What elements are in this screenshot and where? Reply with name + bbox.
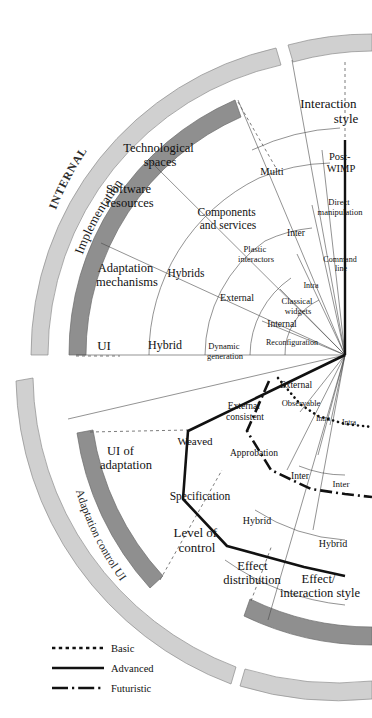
label-inter-effect-2: Inter [333,479,350,489]
diagram-canvas: INTERNAL Implementation Adaptation contr… [0,0,372,718]
label-approbation: Approbation [230,448,278,458]
label-hybrids: Hybrids [167,267,205,280]
label-observable: Observable [282,398,321,408]
label-intra-observable-1: Intra [316,414,331,423]
label-hybrid-impl: Hybrid [148,338,182,352]
label-intra-style: Intra [303,281,319,290]
label-components-and-services: Components and services [197,206,258,231]
label-intra-observable-2: Intra [342,418,357,427]
label-post-wimp: Post- WIMP [327,151,356,174]
label-hybrid-effect-2: Hybrid [319,538,347,549]
label-external-observable: External [280,380,313,390]
label-inter-effect-1: Inter [291,471,310,481]
label-classical-widgets: Classical widgets [282,296,315,316]
label-inter-style: Inter [287,228,306,238]
legend-label-basic: Basic [111,643,135,654]
label-reconfiguration: Reconfiguration [266,338,318,347]
label-internal-impl: Internal [267,319,297,329]
label-dynamic-generation: Dynamic generation [207,341,244,361]
label-external-impl: External [220,292,254,303]
label-hybrid-effect-1: Hybrid [243,515,271,526]
radial-taxonomy-figure: INTERNAL Implementation Adaptation contr… [0,0,372,718]
callout-level-of-control: Level of control [174,525,221,555]
label-weaved: Weaved [177,435,213,447]
legend-label-advanced: Advanced [111,663,154,674]
label-multi: Multi [260,166,283,177]
label-software-resources: Software resources [106,182,154,210]
label-external-consistent: External consistent [226,401,264,422]
legend-label-futuristic: Futuristic [111,683,152,694]
label-adaptation-mechanisms: Adaptation mechanisms [96,261,158,289]
label-ui: UI [97,338,111,353]
label-specification: Specification [170,490,231,503]
